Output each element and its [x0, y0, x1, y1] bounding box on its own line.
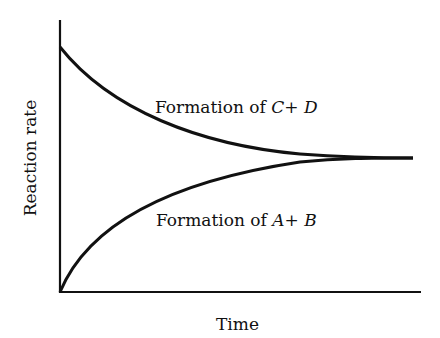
label-prefix: Formation of: [155, 97, 271, 117]
upper-curve-label: Formation of C+ D: [155, 97, 318, 117]
label-species: A+ B: [272, 210, 316, 230]
chart-plot: [0, 0, 440, 338]
label-prefix: Formation of: [156, 210, 272, 230]
x-axis-label: Time: [216, 314, 259, 334]
label-species: C+ D: [271, 97, 317, 117]
reaction-rate-chart: Formation of C+ D Formation of A+ B Time…: [0, 0, 440, 338]
lower-curve-label: Formation of A+ B: [156, 210, 317, 230]
y-axis-label: Reaction rate: [20, 100, 40, 217]
